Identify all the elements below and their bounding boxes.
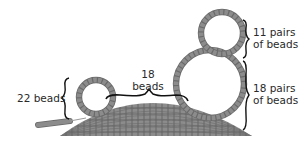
top-loop (201, 12, 243, 54)
dome-base (60, 103, 252, 136)
label-big-loop: 18 pairs of beads (253, 82, 298, 106)
label-bridge: 18 beads (128, 68, 168, 92)
big-loop (176, 50, 244, 118)
label-top-loop: 11 pairs of beads (253, 26, 298, 50)
label-top-loop-line1: 11 pairs (253, 26, 298, 38)
label-bridge-line2: beads (128, 80, 168, 92)
label-big-loop-line2: of beads (253, 94, 298, 106)
beadwork-diagram: 22 beads 18 beads 11 pairs of beads 18 p… (0, 0, 306, 146)
label-top-loop-line2: of beads (253, 38, 298, 50)
label-left-loop: 22 beads (17, 92, 65, 104)
label-bridge-line1: 18 (128, 68, 168, 80)
label-big-loop-line1: 18 pairs (253, 82, 298, 94)
